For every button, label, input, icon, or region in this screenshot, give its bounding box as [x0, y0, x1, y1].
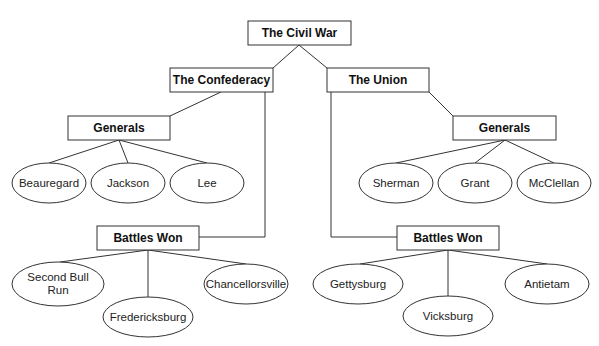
node-the-union: The Union: [327, 68, 429, 92]
leaf-jackson: Jackson: [91, 163, 165, 203]
svg-text:Chancellorsville: Chancellorsville: [206, 278, 287, 290]
edge-ubat-gettysburg: [360, 250, 448, 264]
svg-text:McClellan: McClellan: [529, 177, 580, 189]
svg-text:Grant: Grant: [461, 177, 491, 189]
leaf-gettysburg: Gettysburg: [313, 264, 403, 304]
svg-text:Sherman: Sherman: [373, 177, 420, 189]
node-confederate-battles-won: Battles Won: [97, 226, 199, 250]
edge-cbat-chancellorsville: [148, 250, 246, 264]
svg-text:The Civil War: The Civil War: [262, 26, 338, 40]
leaf-sherman: Sherman: [359, 163, 433, 203]
edge-cgen-lee: [119, 140, 207, 163]
edge-ugen-sherman: [396, 140, 505, 163]
leaf-vicksburg: Vicksburg: [403, 296, 493, 336]
edge-cbat-secondbullrun: [60, 250, 148, 262]
leaf-second-bull-run: Second Bull Run: [12, 262, 104, 306]
leaf-lee: Lee: [170, 163, 244, 203]
node-union-generals: Generals: [453, 116, 556, 140]
svg-text:Beauregard: Beauregard: [19, 177, 79, 189]
leaf-beauregard: Beauregard: [12, 163, 86, 203]
svg-text:Vicksburg: Vicksburg: [423, 310, 473, 322]
svg-text:Gettysburg: Gettysburg: [330, 278, 386, 290]
edge-confederacy-generals: [170, 92, 221, 116]
edge-ugen-mcclellan: [505, 140, 554, 163]
leaf-grant: Grant: [438, 163, 512, 203]
node-union-battles-won: Battles Won: [397, 226, 499, 250]
node-the-civil-war: The Civil War: [248, 21, 351, 45]
civil-war-tree-diagram: The Civil War The Confederacy The Union …: [0, 0, 599, 346]
edge-root-confederacy: [273, 45, 299, 68]
svg-text:The Union: The Union: [349, 73, 408, 87]
svg-text:Jackson: Jackson: [107, 177, 149, 189]
leaf-chancellorsville: Chancellorsville: [204, 264, 288, 304]
svg-text:The Confederacy: The Confederacy: [173, 73, 271, 87]
leaf-fredericksburg: Fredericksburg: [103, 297, 193, 337]
edge-cgen-beauregard: [49, 140, 119, 163]
svg-text:Generals: Generals: [479, 121, 531, 135]
svg-text:Generals: Generals: [93, 121, 145, 135]
edge-ubat-antietam: [448, 250, 547, 264]
svg-text:Fredericksburg: Fredericksburg: [110, 311, 187, 323]
edge-root-union: [299, 45, 327, 68]
svg-text:Battles Won: Battles Won: [413, 231, 482, 245]
leaf-mcclellan: McClellan: [517, 163, 591, 203]
svg-text:Antietam: Antietam: [524, 278, 569, 290]
edge-cgen-jackson: [119, 140, 128, 163]
node-the-confederacy: The Confederacy: [170, 68, 273, 92]
node-confederate-generals: Generals: [68, 116, 170, 140]
svg-text:Lee: Lee: [197, 177, 216, 189]
edge-union-generals: [429, 92, 453, 116]
svg-text:Battles Won: Battles Won: [113, 231, 182, 245]
svg-text:Second Bull: Second Bull: [27, 271, 88, 283]
svg-text:Run: Run: [47, 284, 68, 296]
leaf-antietam: Antietam: [505, 264, 589, 304]
